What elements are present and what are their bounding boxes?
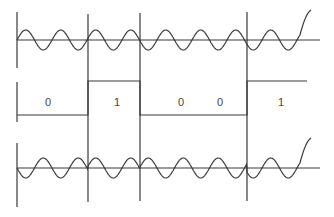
carrier-wave [17, 10, 311, 50]
bit-label-1: 1 [114, 96, 120, 108]
bit-label-0: 0 [45, 96, 51, 108]
binary-signal [17, 81, 307, 115]
modulated-wave [17, 138, 311, 178]
carrier-panel [17, 10, 320, 125]
bit-labels: 0 1 0 0 1 [45, 96, 284, 108]
bit-label-2: 0 [178, 96, 184, 108]
bit-label-3: 0 [217, 96, 223, 108]
binary-panel [17, 81, 307, 122]
bit-label-4: 1 [278, 96, 284, 108]
psk-diagram: 0 1 0 0 1 [0, 0, 334, 217]
modulated-panel [17, 125, 320, 207]
